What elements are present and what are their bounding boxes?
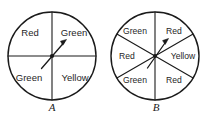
sector-label-a-bottom-right: Yellow (61, 72, 88, 83)
sector-label-a-bottom-left: Green (16, 72, 42, 83)
sector-label-b-bottom-left: Green (123, 75, 147, 85)
spinner-b: Green Red Red Yellow Green Red B (104, 0, 208, 122)
sector-label-b-top-left: Green (123, 26, 147, 36)
sector-label-b-right: Yellow (171, 51, 196, 61)
spinner-figure: Red Green Green Yellow A Green Red Red Y… (0, 0, 208, 122)
spinner-b-caption: B (104, 100, 208, 114)
spinner-a-caption: A (0, 100, 104, 114)
sector-label-b-top-right: Red (166, 26, 182, 36)
spinner-a-wheel[interactable]: Red Green Green Yellow (0, 0, 104, 104)
sector-label-b-bottom-right: Red (166, 75, 182, 85)
sector-label-b-left: Red (119, 51, 135, 61)
needle-hub-a (50, 54, 54, 58)
spinner-a: Red Green Green Yellow A (0, 0, 104, 122)
sector-label-a-top-left: Red (21, 27, 38, 38)
sector-label-a-top-right: Green (61, 27, 87, 38)
needle-hub-b (153, 54, 157, 58)
spinner-b-wheel[interactable]: Green Red Red Yellow Green Red (104, 0, 208, 104)
